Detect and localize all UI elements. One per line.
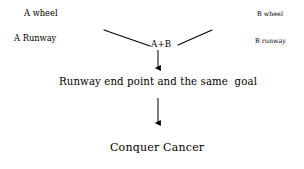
- statement-runway-end-point: Runway end point and the same goal: [59, 77, 257, 87]
- label-a-wheel: A wheel: [24, 9, 58, 17]
- statement-conquer-cancer: Conquer Cancer: [110, 142, 204, 153]
- label-b-runway: B runway: [255, 38, 286, 44]
- left-diagonal-connector: [104, 30, 150, 46]
- node-a-plus-b: A+B: [151, 40, 171, 49]
- label-b-wheel: B wheel: [257, 11, 283, 17]
- flow-diagram: A wheel A Runway B wheel B runway A+B Ru…: [0, 0, 304, 169]
- label-a-runway: A Runway: [14, 34, 56, 42]
- right-diagonal-connector: [178, 30, 212, 45]
